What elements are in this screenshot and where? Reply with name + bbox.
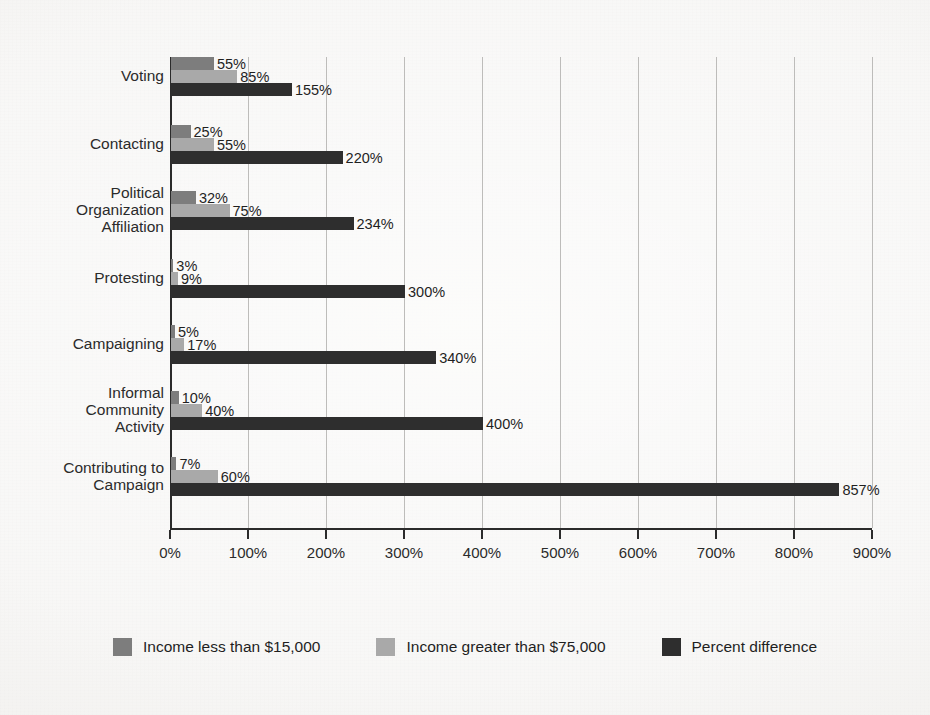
bar-value-label: 857% [842, 484, 879, 497]
category-label: Contributing to Campaign [10, 459, 164, 493]
x-axis-tick-label: 900% [853, 544, 891, 561]
bar [171, 338, 184, 351]
bar-value-label: 400% [486, 418, 523, 431]
x-axis-tick-500 [559, 530, 561, 539]
gridline-600 [638, 57, 639, 528]
x-axis-tick-label: 400% [463, 544, 501, 561]
x-axis-tick-label: 700% [697, 544, 735, 561]
legend-item[interactable]: Percent difference [662, 638, 818, 656]
x-axis-tick-200 [325, 530, 327, 539]
bar [171, 204, 230, 217]
bar [171, 83, 292, 96]
x-axis-tick-600 [637, 530, 639, 539]
x-axis-tick-900 [871, 530, 873, 539]
legend-label: Income greater than $75,000 [406, 638, 605, 656]
bar [171, 404, 202, 417]
legend-item[interactable]: Income less than $15,000 [113, 638, 321, 656]
chart-legend: Income less than $15,000Income greater t… [0, 638, 930, 656]
x-axis-tick-100 [247, 530, 249, 539]
bar-value-label: 155% [295, 84, 332, 97]
x-axis-tick-700 [715, 530, 717, 539]
bar [171, 272, 178, 285]
x-axis-tick-label: 0% [159, 544, 181, 561]
bar [171, 70, 237, 83]
bar-value-label: 340% [439, 352, 476, 365]
legend-label: Percent difference [692, 638, 818, 656]
gridline-500 [560, 57, 561, 528]
x-axis-tick-800 [793, 530, 795, 539]
bar-value-label: 300% [408, 286, 445, 299]
category-label: Campaigning [10, 335, 164, 352]
x-axis-tick-label: 500% [541, 544, 579, 561]
bar [171, 57, 214, 70]
bar [171, 457, 176, 470]
x-axis-tick-0 [169, 530, 171, 539]
legend-swatch-income-less-15000 [113, 638, 132, 656]
category-label: Contacting [10, 135, 164, 152]
bar [171, 351, 436, 364]
bar [171, 151, 343, 164]
bar-value-label: 234% [357, 218, 394, 231]
x-axis-tick-label: 100% [229, 544, 267, 561]
x-axis-tick-label: 300% [385, 544, 423, 561]
bar [171, 285, 405, 298]
legend-item[interactable]: Income greater than $75,000 [376, 638, 605, 656]
bar [171, 417, 483, 430]
bar [171, 391, 179, 404]
bar [171, 125, 191, 138]
category-label: Voting [10, 67, 164, 84]
category-label: Political Organization Affiliation [10, 184, 164, 235]
category-label: Informal Community Activity [10, 384, 164, 435]
bar [171, 483, 839, 496]
bar [171, 325, 175, 338]
legend-swatch-percent-difference [662, 638, 681, 656]
bar [171, 191, 196, 204]
bar-value-label: 220% [346, 152, 383, 165]
bar [171, 138, 214, 151]
x-axis-tick-400 [481, 530, 483, 539]
category-label: Protesting [10, 269, 164, 286]
x-axis-tick-300 [403, 530, 405, 539]
bar [171, 470, 218, 483]
x-axis-tick-label: 800% [775, 544, 813, 561]
chart-page: 0%100%200%300%400%500%600%700%800%900%Vo… [0, 0, 930, 715]
x-axis-tick-label: 600% [619, 544, 657, 561]
legend-swatch-income-greater-75000 [376, 638, 395, 656]
gridline-900 [872, 57, 873, 528]
bar [171, 259, 173, 272]
gridline-400 [482, 57, 483, 528]
bar-chart-plot-area: 0%100%200%300%400%500%600%700%800%900%Vo… [0, 0, 930, 715]
x-axis-line [170, 528, 872, 530]
x-axis-tick-label: 200% [307, 544, 345, 561]
bar [171, 217, 354, 230]
gridline-700 [716, 57, 717, 528]
gridline-800 [794, 57, 795, 528]
legend-label: Income less than $15,000 [143, 638, 321, 656]
